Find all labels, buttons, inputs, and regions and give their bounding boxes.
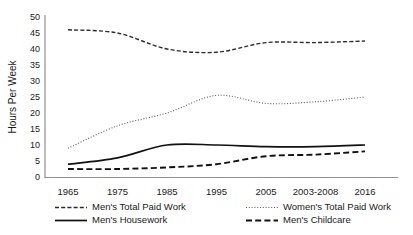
y-axis-title: Hours Per Week — [7, 59, 18, 133]
x-tick-label-1975: 1975 — [107, 186, 128, 197]
x-tick-label-2016: 2016 — [354, 186, 375, 197]
legend-item-mens-childcare: Men's Childcare — [246, 214, 391, 226]
legend-label-womens-total-paid-work: Women's Total Paid Work — [283, 201, 391, 213]
y-tick-label-20: 20 — [30, 108, 40, 118]
y-tick-label-25: 25 — [30, 92, 40, 102]
y-tick-label-40: 40 — [30, 44, 40, 54]
dashed-line-sample-icon — [55, 204, 87, 211]
legend-item-mens-housework: Men's Housework — [55, 214, 246, 226]
y-tick-label-15: 15 — [30, 124, 40, 134]
x-tick-label-1965: 1965 — [57, 186, 78, 197]
x-tick-label-2005: 2005 — [255, 186, 276, 197]
y-tick-label-50: 50 — [30, 12, 40, 22]
y-tick-label-30: 30 — [30, 76, 40, 86]
legend-item-womens-total-paid-work: Women's Total Paid Work — [246, 201, 391, 213]
chart-canvas: 0510152025303540455019651975198519952005… — [0, 0, 413, 200]
legend-item-mens-total-paid-work: Men's Total Paid Work — [55, 201, 246, 213]
y-tick-label-5: 5 — [35, 156, 40, 166]
chart-legend: Men's Total Paid Work Women's Total Paid… — [55, 201, 391, 226]
x-tick-label-1995: 1995 — [206, 186, 227, 197]
y-tick-label-10: 10 — [30, 140, 40, 150]
x-tick-label-2003-2008: 2003-2008 — [293, 186, 338, 197]
legend-label-mens-childcare: Men's Childcare — [283, 214, 351, 226]
y-tick-label-35: 35 — [30, 60, 40, 70]
y-tick-label-0: 0 — [35, 172, 40, 182]
bold-dashed-line-sample-icon — [246, 217, 278, 224]
series-line-men-s-childcare — [68, 151, 365, 169]
legend-label-mens-housework: Men's Housework — [92, 214, 167, 226]
series-line-men-s-total-paid-work — [68, 30, 365, 53]
dotted-line-sample-icon — [246, 204, 278, 211]
hours-per-week-line-chart: 0510152025303540455019651975198519952005… — [0, 0, 413, 235]
solid-line-sample-icon — [55, 217, 87, 224]
y-tick-label-45: 45 — [30, 28, 40, 38]
legend-label-mens-total-paid-work: Men's Total Paid Work — [92, 201, 186, 213]
series-line-women-s-total-paid-work — [68, 95, 365, 148]
x-tick-label-1985: 1985 — [156, 186, 177, 197]
